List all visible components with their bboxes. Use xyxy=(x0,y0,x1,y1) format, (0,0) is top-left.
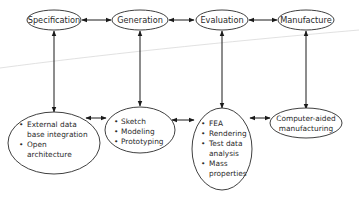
bullet-text: analysis xyxy=(209,149,239,158)
bullet-glyph: • xyxy=(201,139,205,148)
bullet-text: base integration xyxy=(27,130,88,139)
bullet-glyph: • xyxy=(201,129,205,138)
bullet-text: Modeling xyxy=(121,127,155,136)
node-text: manufacturing xyxy=(279,124,334,133)
bullet-text: Prototyping xyxy=(121,137,164,146)
bullet-glyph: • xyxy=(19,140,23,149)
node-manufacture: Manufacture xyxy=(278,10,334,30)
bullet-glyph: • xyxy=(201,119,205,128)
bullet-glyph: • xyxy=(201,159,205,168)
vertical-edges xyxy=(54,31,306,112)
node-manufacture-detail: Computer-aided manufacturing xyxy=(270,108,342,138)
design-process-diagram: Specification Generation Evaluation Manu… xyxy=(0,0,359,198)
bullet-text: External data xyxy=(27,120,77,129)
node-evaluation-detail: • FEA • Rendering • Test data analysis •… xyxy=(192,108,252,190)
node-generation-detail: • Sketch • Modeling • Prototyping xyxy=(105,107,175,153)
bullet-text: architecture xyxy=(27,150,72,159)
node-specification-detail: • External data base integration • Open … xyxy=(8,112,100,174)
bullet-text: Rendering xyxy=(209,129,247,138)
node-evaluation: Evaluation xyxy=(196,10,248,30)
bullet-glyph: • xyxy=(114,137,118,146)
bullet-glyph: • xyxy=(19,120,23,129)
node-text: Computer-aided xyxy=(276,114,336,123)
bullet-text: Mass xyxy=(209,159,228,168)
node-label: Manufacture xyxy=(280,15,331,25)
node-generation: Generation xyxy=(112,10,168,30)
bullet-text: FEA xyxy=(209,119,223,128)
node-label: Specification xyxy=(28,15,81,25)
node-label: Generation xyxy=(117,15,163,25)
bullet-text: Sketch xyxy=(121,117,146,126)
bullet-text: Open xyxy=(27,140,47,149)
node-label: Evaluation xyxy=(200,15,243,25)
bullet-glyph: • xyxy=(114,127,118,136)
bullet-glyph: • xyxy=(114,117,118,126)
bullet-text: Test data xyxy=(208,139,243,148)
node-specification: Specification xyxy=(27,10,81,30)
bullet-text: properties xyxy=(209,169,247,178)
